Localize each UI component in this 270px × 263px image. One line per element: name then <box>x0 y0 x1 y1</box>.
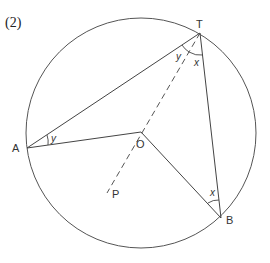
angle-label-T-left: y <box>175 51 182 62</box>
segment-AT <box>27 33 200 148</box>
geometry-diagram: (2) T A O B P y y x x <box>0 0 270 263</box>
angle-label-T-right: x <box>193 57 200 68</box>
segment-TP-dashed <box>107 33 200 193</box>
label-T: T <box>196 18 203 30</box>
label-P: P <box>112 188 119 200</box>
label-B: B <box>226 214 233 226</box>
angle-arc-T-left <box>182 45 189 52</box>
figure-number: (2) <box>5 15 22 31</box>
label-A: A <box>12 142 20 154</box>
angle-arc-T-right <box>189 52 203 55</box>
circle <box>26 18 256 248</box>
segment-AO <box>27 132 141 148</box>
segment-OB <box>141 132 221 218</box>
angle-arc-A <box>47 135 48 145</box>
label-O: O <box>136 138 145 150</box>
angle-arc-B <box>208 200 219 203</box>
angle-label-B: x <box>209 187 216 198</box>
angle-label-A: y <box>50 133 57 144</box>
